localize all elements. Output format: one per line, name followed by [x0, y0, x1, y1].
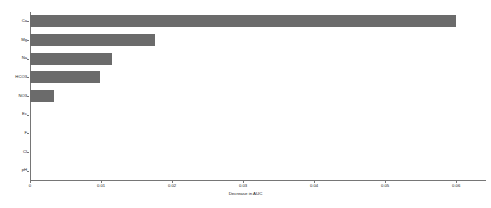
x-tick-label: 0.06: [452, 184, 460, 188]
y-tick-mark: [27, 96, 29, 97]
bar-row: [30, 143, 486, 162]
bar-mg: [30, 34, 155, 46]
x-axis-title: Decrease in AUC: [0, 192, 491, 196]
y-tick-mark: [27, 133, 29, 134]
bar-row: [30, 68, 486, 87]
bar-series: [30, 12, 486, 180]
bar-row: [30, 12, 486, 31]
bar-hco3: [30, 71, 100, 83]
x-tick-label: 0.01: [97, 184, 105, 188]
bar-no3: [30, 90, 54, 102]
x-tick-label: 0.03: [239, 184, 247, 188]
chart-screenshot: CaMgNaHCO3NO3EcFClpH 00.010.020.030.040.…: [0, 0, 491, 208]
bar-row: [30, 87, 486, 106]
y-tick-mark: [27, 152, 29, 153]
bar-row: [30, 31, 486, 50]
y-tick-mark: [27, 40, 29, 41]
y-tick-mark: [27, 115, 29, 116]
x-tick-label: 0: [29, 184, 31, 188]
y-tick-mark: [27, 59, 29, 60]
bar-row: [30, 49, 486, 68]
bar-row: [30, 105, 486, 124]
y-tick-mark: [27, 77, 29, 78]
y-tick-mark: [27, 171, 29, 172]
y-axis-tick-labels: CaMgNaHCO3NO3EcFClpH: [0, 12, 27, 180]
x-tick-label: 0.04: [310, 184, 318, 188]
y-tick-mark: [27, 21, 29, 22]
bar-ca: [30, 15, 456, 27]
x-tick-label: 0.02: [168, 184, 176, 188]
x-tick-label: 0.05: [381, 184, 389, 188]
bar-na: [30, 53, 112, 65]
y-tick-label-no3: NO3: [18, 94, 27, 98]
bar-row: [30, 161, 486, 180]
x-axis-line: [30, 180, 486, 181]
bar-row: [30, 124, 486, 143]
y-tick-label-hco3: HCO3: [15, 75, 27, 79]
